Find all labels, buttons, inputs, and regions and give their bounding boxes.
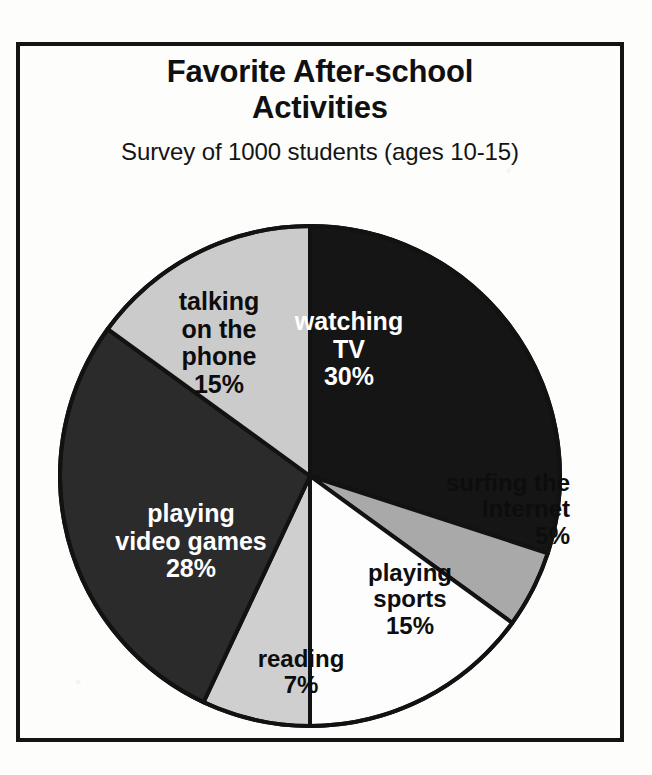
chart-title-line-2: Activities — [36, 90, 604, 126]
pie-chart-svg — [58, 212, 570, 732]
chart-header: Favorite After-school Activities Survey … — [16, 54, 624, 166]
scanned-page: Favorite After-school Activities Survey … — [0, 0, 652, 775]
page-title: Favorite After-school Activities — [16, 54, 624, 126]
chart-title-line-1: Favorite After-school — [36, 54, 604, 90]
pie-slice-group — [60, 226, 560, 726]
pie-chart: watching TV 30% surfing the Internet 5% … — [58, 212, 570, 732]
chart-subtitle: Survey of 1000 students (ages 10-15) — [16, 138, 624, 166]
